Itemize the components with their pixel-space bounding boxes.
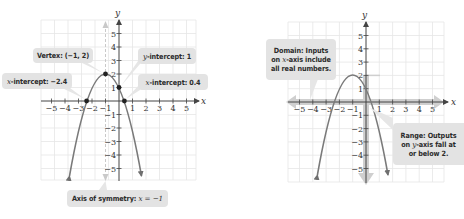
x-tick: −5 (46, 104, 58, 113)
y-intercept-point (117, 85, 122, 90)
x-intercept-left-callout: x-intercept: −2.4 (2, 73, 72, 89)
x-tick: 2 (143, 104, 148, 113)
x-tick: 3 (403, 105, 408, 114)
y-tick: −5 (104, 165, 116, 174)
domain-line-1: Domain: Inputs (274, 46, 328, 55)
domain-line-2: on x-axis include (271, 55, 331, 64)
y-tick: −1 (351, 111, 363, 120)
axis-symmetry-label: Axis of symmetry: (72, 194, 136, 203)
x-tick: 5 (430, 105, 435, 114)
y-axis-label: y (361, 10, 368, 20)
y-tick: 1 (111, 84, 116, 93)
x-tick: 4 (417, 105, 422, 114)
y-tick: −1 (104, 111, 116, 120)
y-tick: 3 (111, 57, 116, 66)
x-tick: 5 (184, 104, 189, 113)
y-tick: −4 (351, 151, 363, 160)
x-tick: −5 (294, 105, 306, 114)
y-tick: 5 (358, 32, 363, 41)
left-graph: −5 −4 −3 −2 −1 1 2 3 4 5 5 4 3 2 1 −1 −2… (41, 8, 206, 190)
vertex-point (103, 72, 108, 77)
range-line-2-pre: on (401, 140, 412, 149)
y-intercept-callout: y-intercept: 1 (138, 48, 196, 64)
x-tick: −2 (86, 104, 98, 113)
graphs-canvas: −5 −4 −3 −2 −1 1 2 3 4 5 5 4 3 2 1 −1 −2… (0, 0, 464, 219)
x-tick: 1 (130, 104, 135, 113)
x-tick: −2 (334, 105, 346, 114)
x-tick: 3 (157, 104, 162, 113)
y-tick: −2 (351, 125, 363, 134)
y-tick: 5 (111, 30, 116, 39)
y-tick: −3 (351, 138, 363, 147)
y-tick: −2 (104, 124, 116, 133)
domain-line-2-post: -axis include (286, 55, 331, 64)
x-intercept-right-point (122, 99, 127, 104)
x-intercept-right-text: -intercept: 0.4 (150, 78, 201, 87)
left-x-tick-labels: −5 −4 −3 −2 −1 1 2 3 4 5 (46, 104, 189, 113)
x-axis-label: x (451, 97, 456, 107)
y-tick: 1 (358, 85, 363, 94)
range-line-2: on y-axis fall at (401, 140, 456, 149)
range-line-2-post: -axis fall at (416, 140, 456, 149)
y-tick: 3 (358, 58, 363, 67)
x-tick: 2 (390, 105, 395, 114)
y-axis-label: y (114, 8, 121, 18)
x-intercept-right-callout: x-intercept: 0.4 (138, 74, 208, 90)
y-tick: 4 (358, 45, 363, 54)
x-tick: 4 (170, 104, 175, 113)
y-tick: −4 (104, 151, 116, 160)
x-intercept-left-point (84, 99, 89, 104)
y-tick: 4 (111, 43, 116, 52)
x-tick: −4 (59, 104, 71, 113)
x-tick: −3 (320, 105, 332, 114)
axis-symmetry-equation: x = −1 (138, 194, 163, 203)
y-tick: −3 (104, 138, 116, 147)
x-axis-label: x (201, 96, 206, 106)
range-line-3: or below 2. (409, 149, 449, 158)
domain-line-3: all real numbers. (271, 64, 331, 73)
x-intercept-left-text: -intercept: −2.4 (11, 77, 67, 86)
x-tick: −4 (307, 105, 319, 114)
y-intercept-text: -intercept: 1 (147, 52, 191, 61)
vertex-callout: Vertex: (−1, 2) (33, 48, 93, 63)
y-tick: −5 (351, 165, 363, 174)
range-callout: Range: Outputs on y-axis fall at or belo… (393, 123, 464, 165)
x-tick: −3 (73, 104, 85, 113)
vertex-callout-text: Vertex: (−1, 2) (37, 51, 89, 60)
range-line-1: Range: Outputs (401, 131, 457, 140)
axis-of-symmetry-callout: Axis of symmetry: x = −1 (67, 190, 168, 207)
domain-line-2-pre: on (271, 55, 282, 64)
left-callout-pointers (62, 58, 140, 190)
domain-callout: Domain: Inputs on x-axis include all rea… (266, 39, 336, 80)
